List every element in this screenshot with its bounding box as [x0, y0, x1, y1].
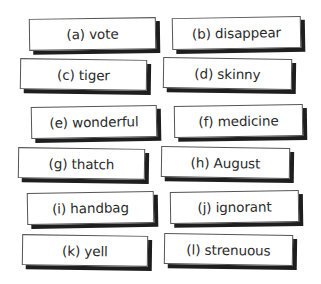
word-card-medicine: (f) medicine [174, 104, 303, 138]
word-card-label: (d) skinny [194, 65, 260, 82]
word-card-label: (b) disappear [192, 24, 281, 42]
word-card-label: (e) wonderful [49, 113, 138, 131]
word-card-label: (k) yell [62, 242, 108, 259]
word-card-label: (a) vote [66, 26, 118, 43]
word-card-ignorant: (j) ignorant [170, 190, 299, 224]
word-card-label: (g) thatch [48, 155, 114, 172]
word-card-august: (h) August [161, 146, 290, 179]
word-card-vote: (a) vote [29, 17, 156, 51]
word-card-disappear: (b) disappear [172, 16, 302, 50]
word-card-handbag: (i) handbag [27, 191, 155, 225]
word-card-label: (i) handbag [52, 199, 129, 216]
word-card-wonderful: (e) wonderful [31, 105, 158, 139]
word-card-tiger: (c) tiger [20, 58, 147, 91]
word-card-label: (j) ignorant [197, 198, 271, 215]
word-card-skinny: (d) skinny [163, 57, 292, 90]
word-card-thatch: (g) thatch [18, 147, 145, 180]
word-card-label: (l) strenuous [186, 241, 270, 258]
word-card-label: (c) tiger [57, 66, 110, 83]
word-card-label: (f) medicine [198, 112, 278, 129]
word-card-label: (h) August [191, 154, 261, 171]
word-card-yell: (k) yell [22, 234, 148, 267]
word-card-strenuous: (l) strenuous [164, 233, 293, 266]
